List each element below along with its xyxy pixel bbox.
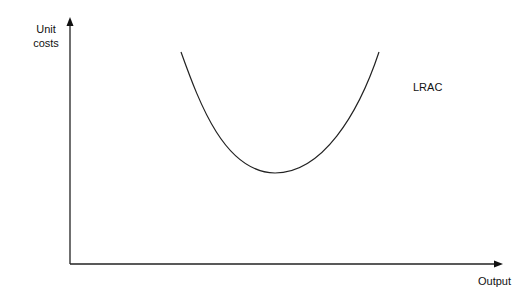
x-axis-arrow-icon bbox=[494, 261, 503, 268]
y-axis-label-line1: Unit bbox=[26, 22, 66, 36]
x-axis-label: Output bbox=[478, 274, 511, 288]
y-axis-arrow-icon bbox=[67, 17, 74, 26]
lrac-curve bbox=[181, 52, 379, 173]
curve-label: LRAC bbox=[413, 80, 442, 94]
y-axis-label: Unit costs bbox=[26, 22, 66, 50]
y-axis-label-line2: costs bbox=[26, 36, 66, 50]
lrac-diagram bbox=[0, 0, 522, 299]
y-axis bbox=[67, 17, 74, 264]
x-axis bbox=[70, 261, 503, 268]
